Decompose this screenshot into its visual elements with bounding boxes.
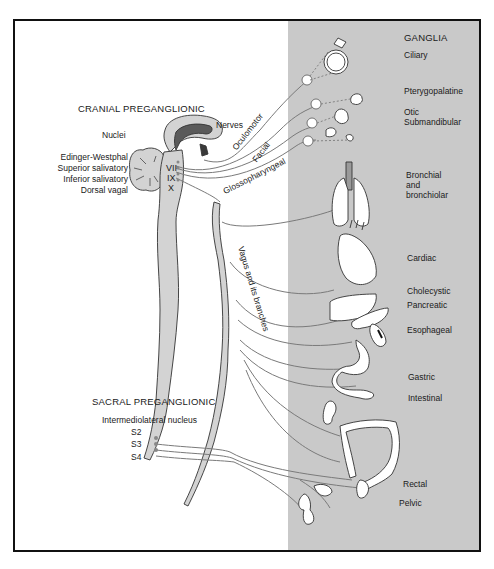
ganglion-pelvic: Pelvic	[399, 498, 422, 508]
numeral-ix: IX	[167, 173, 176, 183]
cerebellum-shape	[130, 148, 164, 191]
submandibular-ganglion	[303, 136, 313, 146]
ganglion-ciliary: Ciliary	[404, 50, 428, 60]
ganglion-esophageal: Esophageal	[407, 325, 452, 335]
otic-ganglion	[307, 118, 317, 128]
ganglion-gastric: Gastric	[408, 372, 435, 382]
ganglia-heading: GANGLIA	[404, 33, 448, 43]
sacral-preganglionic-heading: SACRAL PREGANGLIONIC	[92, 397, 215, 407]
ganglion-pancreatic: Pancreatic	[407, 300, 447, 310]
ganglion-bronchiolar: bronchiolar	[406, 190, 448, 200]
numeral-vii: VII	[166, 163, 177, 173]
nuclei-label: Nuclei	[102, 130, 126, 140]
ganglion-submandibular: Submandibular	[404, 117, 461, 127]
ganglion-intestinal: Intestinal	[408, 393, 442, 403]
segment-s4: S4	[131, 452, 141, 462]
parotid-gland	[335, 109, 349, 124]
ganglion-bronchial: Bronchial	[406, 170, 441, 180]
spinal-cord	[144, 150, 184, 460]
numeral-x: X	[168, 183, 174, 193]
lungs-organ	[332, 178, 348, 226]
segment-s3: S3	[131, 439, 141, 449]
intermediolateral-nucleus-label: Intermediolateral nucleus	[102, 415, 197, 425]
segment-s2: S2	[131, 427, 141, 437]
ganglion-cardiac: Cardiac	[407, 253, 436, 263]
pelvic-organ	[314, 484, 332, 496]
nucleus-inferior-salivatory: Inferior salivatory	[42, 174, 128, 184]
nucleus-dorsal-vagal: Dorsal vagal	[42, 185, 128, 195]
esophagus-organ	[370, 324, 386, 347]
ganglion-rectal: Rectal	[403, 479, 427, 489]
eye-organ	[324, 50, 348, 74]
heart-organ	[338, 234, 376, 285]
submandibular-gland	[326, 128, 353, 141]
cranial-preganglionic-heading: CRANIAL PREGANGLIONIC	[78, 104, 205, 114]
pterygopalatine-ganglion	[311, 99, 321, 109]
nucleus-edinger-westphal: Edinger-Westphal	[42, 152, 128, 162]
ganglion-otic: Otic	[404, 107, 419, 117]
nerves-label: Nerves	[216, 120, 243, 130]
ganglion-cholecystic: Cholecystic	[407, 286, 450, 296]
kidney-organ	[323, 401, 336, 424]
nucleus-superior-salivatory: Superior salivatory	[42, 163, 128, 173]
lacrimal-gland	[351, 94, 363, 105]
rectum-organ	[357, 480, 369, 498]
ganglion-pterygopalatine: Pterygopalatine	[404, 86, 463, 96]
ganglion-and: and	[406, 180, 420, 190]
